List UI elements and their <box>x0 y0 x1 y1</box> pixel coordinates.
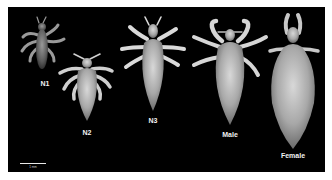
specimen-n1 <box>22 17 64 69</box>
scale-bar-label: 1 mm <box>29 166 37 169</box>
specimen-n3 <box>122 17 184 111</box>
specimen-n2 <box>60 54 112 121</box>
specimen-male <box>194 21 266 125</box>
specimen-illustrations <box>8 7 325 172</box>
label-female: Female <box>281 152 305 159</box>
specimen-female <box>270 15 318 149</box>
label-n3: N3 <box>149 117 158 124</box>
lice-life-stages-figure: N1 N2 N3 Male Female 1 mm <box>8 7 325 172</box>
label-n1: N1 <box>41 80 50 87</box>
scale-bar <box>20 163 46 164</box>
label-male: Male <box>222 131 238 138</box>
label-n2: N2 <box>83 129 92 136</box>
